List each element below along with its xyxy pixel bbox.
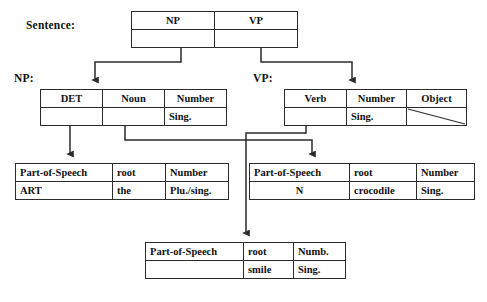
np-header-number: Number [165, 90, 227, 108]
verb-lexical-table: Part-of-Speech root Numb. smile Sing. [145, 242, 346, 279]
vp-value-object-null [407, 108, 467, 126]
det-header-pos: Part-of-Speech [16, 164, 113, 182]
table-row: Sing. [285, 108, 467, 126]
verb-header-pos: Part-of-Speech [146, 243, 244, 261]
noun-header-pos: Part-of-Speech [250, 164, 350, 182]
sentence-header-vp: VP [215, 12, 298, 30]
table-row: ART the Plu./sing. [16, 182, 229, 200]
det-header-number: Number [166, 164, 229, 182]
table-row: NP VP [132, 12, 298, 30]
det-value-pos: ART [16, 182, 113, 200]
diagram-canvas: Sentence: NP: VP: NP VP [0, 0, 487, 302]
np-value-number: Sing. [165, 108, 227, 126]
sentence-table: NP VP [131, 11, 298, 48]
np-value-noun [103, 108, 165, 126]
sentence-header-np: NP [132, 12, 215, 30]
link-sentence-np [95, 46, 181, 80]
table-row: Sing. [41, 108, 227, 126]
verb-header-number: Numb. [294, 243, 346, 261]
table-row: DET Noun Number [41, 90, 227, 108]
np-header-noun: Noun [103, 90, 165, 108]
det-value-number: Plu./sing. [166, 182, 229, 200]
noun-value-pos: N [250, 182, 350, 200]
sentence-value-np [132, 30, 215, 48]
table-row: Verb Number Object [285, 90, 467, 108]
verb-header-root: root [244, 243, 294, 261]
np-label: NP: [14, 72, 34, 84]
vp-header-verb: Verb [285, 90, 347, 108]
determiner-lexical-table: Part-of-Speech root Number ART the Plu./… [15, 163, 229, 200]
table-row [132, 30, 298, 48]
vp-table: Verb Number Object Sing. [284, 89, 467, 126]
vp-header-object: Object [407, 90, 467, 108]
np-header-det: DET [41, 90, 103, 108]
table-row: N crocodile Sing. [250, 182, 475, 200]
table-row: Part-of-Speech root Numb. [146, 243, 346, 261]
noun-lexical-table: Part-of-Speech root Number N crocodile S… [249, 163, 475, 200]
table-row: Part-of-Speech root Number [250, 164, 475, 182]
sentence-label: Sentence: [26, 19, 75, 31]
vp-label: VP: [253, 72, 273, 84]
vp-value-verb [285, 108, 347, 126]
det-header-root: root [113, 164, 166, 182]
link-sentence-vp [261, 46, 352, 80]
noun-header-number: Number [417, 164, 475, 182]
verb-value-number: Sing. [294, 261, 346, 279]
noun-value-root: crocodile [350, 182, 417, 200]
verb-value-root: smile [244, 261, 294, 279]
noun-header-root: root [350, 164, 417, 182]
np-value-det [41, 108, 103, 126]
table-row: smile Sing. [146, 261, 346, 279]
noun-value-number: Sing. [417, 182, 475, 200]
np-table: DET Noun Number Sing. [40, 89, 227, 126]
null-slash-icon [407, 108, 466, 125]
vp-header-number: Number [347, 90, 407, 108]
verb-value-pos [146, 261, 244, 279]
sentence-value-vp [215, 30, 298, 48]
det-value-root: the [113, 182, 166, 200]
table-row: Part-of-Speech root Number [16, 164, 229, 182]
vp-value-number: Sing. [347, 108, 407, 126]
